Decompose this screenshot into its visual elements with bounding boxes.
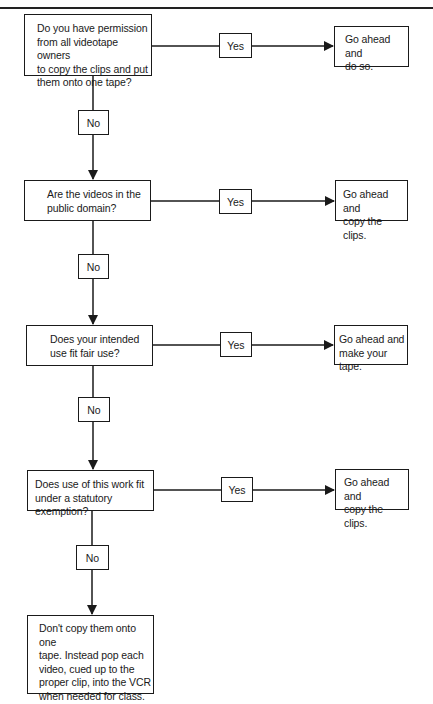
decision-text: Does use of this work fit under a statut… <box>35 478 153 519</box>
yes-label: Yes <box>220 332 252 357</box>
outcome-box-do-so: Go ahead and do so. <box>334 26 409 67</box>
decision-box-public-domain: Are the videos in the public domain? <box>24 180 151 221</box>
decision-text: Does your intended use fit fair use? <box>50 333 152 360</box>
outcome-box-make-tape: Go ahead and make your tape. <box>334 325 408 365</box>
no-label: No <box>78 397 110 422</box>
yes-label: Yes <box>221 477 253 502</box>
decision-box-statutory-exemption: Does use of this work fit under a statut… <box>27 470 154 511</box>
final-outcome-text: Don't copy them onto one tape. Instead p… <box>39 622 153 703</box>
outcome-text: Go ahead and copy the clips. <box>344 476 408 530</box>
no-label: No <box>76 545 109 570</box>
decision-text: Do you have permission from all videotap… <box>37 22 151 90</box>
outcome-box-copy-clips-2: Go ahead and copy the clips. <box>335 469 409 510</box>
yes-label: Yes <box>219 189 252 214</box>
outcome-box-copy-clips: Go ahead and copy the clips. <box>335 180 408 221</box>
outcome-text: Go ahead and make your tape. <box>339 333 407 374</box>
decision-text: Are the videos in the public domain? <box>47 188 150 215</box>
decision-box-permission: Do you have permission from all videotap… <box>24 14 152 76</box>
outcome-text: Go ahead and do so. <box>345 33 408 74</box>
no-label: No <box>78 254 109 279</box>
no-label: No <box>78 110 109 135</box>
decision-box-fair-use: Does your intended use fit fair use? <box>26 325 153 366</box>
outcome-text: Go ahead and copy the clips. <box>343 188 407 242</box>
yes-label: Yes <box>219 33 252 58</box>
final-outcome-box: Don't copy them onto one tape. Instead p… <box>27 615 154 694</box>
